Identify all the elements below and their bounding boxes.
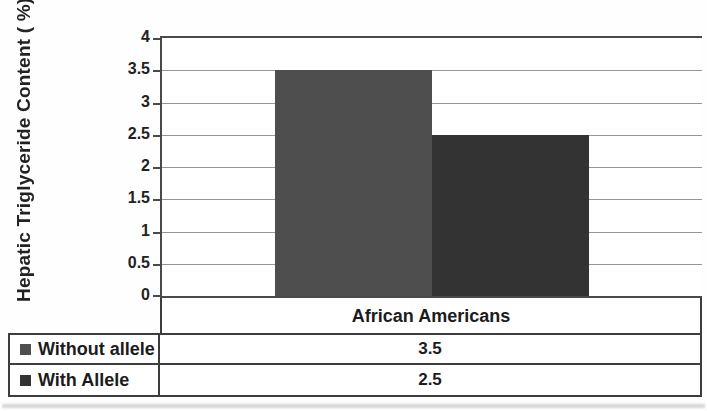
bar-with-allele [432,135,589,296]
y-tick-label: 2.5 [96,125,150,143]
y-axis-tick [153,167,161,169]
y-axis-tick [153,264,161,266]
y-axis-tick [153,135,161,137]
table-value-without-allele: 3.5 [160,335,700,365]
y-axis-tick [153,199,161,201]
plot-area [160,36,702,298]
y-axis-tick [153,103,161,105]
legend-item-with-allele: With Allele [10,365,160,395]
legend-data-table: Without allele 3.5 With Allele 2.5 [8,333,702,397]
y-tick-label: 1.5 [96,189,150,207]
y-tick-label: 0 [96,286,150,304]
chart-figure: Hepatic Triglyceride Content ( %) 00.511… [0,0,707,411]
legend-marker-without-allele-icon [20,344,31,355]
y-axis-title: Hepatic Triglyceride Content ( %) [4,4,44,296]
y-tick-label: 4 [96,28,150,46]
y-tick-label: 3 [96,93,150,111]
scan-artifact [2,404,705,408]
gridline [162,70,702,71]
y-tick-label: 2 [96,157,150,175]
legend-marker-with-allele-icon [20,375,31,386]
y-axis-tick [153,232,161,234]
legend-label: With Allele [38,370,129,391]
y-tick-label: 1 [96,222,150,240]
y-axis-tick [153,70,161,72]
legend-label: Without allele [38,339,155,360]
x-axis-category-label: African Americans [160,298,702,334]
y-tick-label: 3.5 [96,60,150,78]
bar-without-allele [275,70,432,296]
y-axis-tick [153,38,161,40]
gridline [162,103,702,104]
y-axis-tick [153,295,161,297]
legend-item-without-allele: Without allele [10,335,160,365]
y-tick-label: 0.5 [96,254,150,272]
table-value-with-allele: 2.5 [160,365,700,395]
